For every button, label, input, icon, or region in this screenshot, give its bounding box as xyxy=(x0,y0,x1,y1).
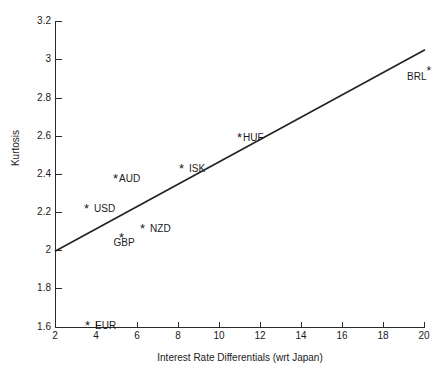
regression-line-layer xyxy=(55,21,425,328)
x-tick-label-6: 6 xyxy=(134,331,140,341)
y-tick-label-2.6: 2.6 xyxy=(37,131,51,141)
x-tick-label-10: 10 xyxy=(213,331,224,341)
x-tick-label-14: 14 xyxy=(295,331,306,341)
plot-area: 1.6 1.8 2 2.2 2.4 2.6 2.8 3 3.2 2 4 xyxy=(55,21,425,328)
data-point-brl[interactable]: BRL* xyxy=(407,67,431,85)
x-tick-label-20: 20 xyxy=(418,331,429,341)
marker-icon: * xyxy=(140,221,145,236)
data-point-label-nzd: NZD xyxy=(150,223,171,234)
data-point-huf[interactable]: *HUF xyxy=(237,128,264,146)
x-axis-title: Interest Rate Differentials (wrt Japan) xyxy=(55,352,425,363)
x-tick-label-18: 18 xyxy=(377,331,388,341)
marker-icon: * xyxy=(85,318,90,333)
data-point-label-isk: ISK xyxy=(189,163,205,174)
marker-icon: * xyxy=(84,201,89,216)
linear-fit-line xyxy=(55,50,425,251)
data-point-eur[interactable]: *EUR xyxy=(85,316,116,334)
x-tick-label-16: 16 xyxy=(336,331,347,341)
y-tick-label-2: 2 xyxy=(45,245,51,255)
marker-icon: * xyxy=(113,171,118,186)
data-point-nzd[interactable]: *NZD xyxy=(140,219,171,237)
scatter-chart-figure: 1.6 1.8 2 2.2 2.4 2.6 2.8 3 3.2 2 4 xyxy=(0,0,443,377)
y-tick-label-1.8: 1.8 xyxy=(37,283,51,293)
marker-icon: * xyxy=(237,130,242,145)
y-tick-label-2.8: 2.8 xyxy=(37,93,51,103)
data-point-gbp[interactable]: * GBP xyxy=(119,228,129,246)
y-tick-label-3: 3 xyxy=(45,54,51,64)
y-axis-title: Kurtosis xyxy=(10,130,21,166)
x-tick-label-12: 12 xyxy=(254,331,265,341)
y-tick-label-2.4: 2.4 xyxy=(37,169,51,179)
data-point-label-aud: AUD xyxy=(119,173,140,184)
data-point-isk[interactable]: *ISK xyxy=(179,159,205,177)
data-point-label-gbp: GBP xyxy=(113,237,134,248)
x-tick-label-2: 2 xyxy=(52,331,58,341)
data-point-label-usd: USD xyxy=(94,203,115,214)
y-tick-label-1.6: 1.6 xyxy=(37,322,51,332)
x-tick-label-8: 8 xyxy=(175,331,181,341)
marker-icon: * xyxy=(179,161,184,176)
data-point-label-eur: EUR xyxy=(95,320,116,331)
y-tick-label-2.2: 2.2 xyxy=(37,207,51,217)
data-point-aud[interactable]: *AUD xyxy=(113,169,140,187)
data-point-usd[interactable]: *USD xyxy=(84,199,115,217)
y-tick-label-3.2: 3.2 xyxy=(37,16,51,26)
marker-icon: * xyxy=(426,64,431,78)
data-point-label-brl: BRL xyxy=(407,71,426,82)
data-point-label-huf: HUF xyxy=(243,132,264,143)
